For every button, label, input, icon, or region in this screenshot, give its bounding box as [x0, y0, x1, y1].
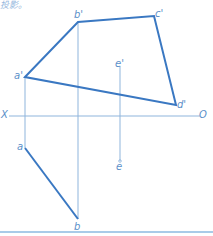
projection-diagram — [0, 0, 213, 236]
label-axis-o: O — [199, 110, 207, 120]
label-a-prime: a' — [14, 71, 23, 81]
label-c-prime: c' — [155, 9, 163, 19]
front-view-quadrilateral — [25, 16, 176, 105]
label-d-prime: d' — [177, 100, 186, 110]
bottom-rule — [0, 231, 213, 233]
label-e-prime: e' — [115, 59, 124, 69]
top-view-line-ab — [25, 148, 78, 219]
label-axis-x: X — [1, 110, 8, 120]
label-a: a — [17, 142, 23, 152]
label-e: e — [116, 162, 122, 172]
label-b-prime: b' — [74, 10, 83, 20]
